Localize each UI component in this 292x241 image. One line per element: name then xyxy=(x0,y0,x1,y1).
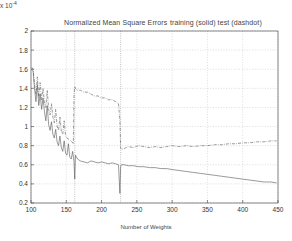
svg-text:0.6: 0.6 xyxy=(19,161,28,168)
y-axis-ticks: 0.20.40.60.811.21.41.61.82 xyxy=(19,27,34,206)
vertical-marker-lines xyxy=(75,31,121,203)
svg-text:1.6: 1.6 xyxy=(19,66,28,73)
svg-text:1.2: 1.2 xyxy=(19,104,28,111)
svg-text:200: 200 xyxy=(96,206,107,213)
svg-text:300: 300 xyxy=(167,206,178,213)
svg-text:1: 1 xyxy=(24,123,28,130)
svg-text:2: 2 xyxy=(24,27,28,34)
data-curves xyxy=(32,67,277,193)
svg-text:350: 350 xyxy=(202,206,213,213)
x-axis-ticks: 100150200250300350400450 xyxy=(26,200,284,213)
svg-text:1.8: 1.8 xyxy=(19,47,28,54)
axes-frame xyxy=(31,31,278,203)
svg-text:0.8: 0.8 xyxy=(19,142,28,149)
svg-text:0.2: 0.2 xyxy=(19,199,28,206)
svg-text:150: 150 xyxy=(61,206,72,213)
svg-text:1.4: 1.4 xyxy=(19,85,28,92)
plot-area: 100150200250300350400450 0.20.40.60.811.… xyxy=(0,0,292,241)
svg-text:250: 250 xyxy=(131,206,142,213)
svg-text:400: 400 xyxy=(237,206,248,213)
gridlines xyxy=(31,31,278,203)
svg-text:100: 100 xyxy=(26,206,37,213)
svg-text:0.4: 0.4 xyxy=(19,180,28,187)
x-axis-label: Number of Weights xyxy=(0,224,292,230)
svg-text:450: 450 xyxy=(273,206,284,213)
chart-figure: x 10-4 Normalized Mean Square Errors tra… xyxy=(0,0,292,241)
